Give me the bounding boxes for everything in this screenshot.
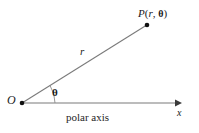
radius-line	[22, 26, 146, 104]
point-p-close-paren: )	[163, 7, 167, 19]
point-p-name: P	[138, 7, 145, 19]
terminal-point-dot	[145, 23, 150, 28]
point-p-label: P(r, θ)	[138, 8, 167, 19]
polar-axis-arrowhead	[175, 100, 182, 107]
radius-label: r	[80, 46, 84, 57]
axis-variable-label: x	[177, 108, 181, 118]
polar-axis-caption: polar axis	[66, 112, 109, 123]
polar-coordinates-figure: P(r, θ) r O θ x polar axis	[0, 0, 199, 133]
origin-label: O	[7, 94, 16, 106]
origin-point-dot	[20, 101, 25, 106]
angle-label: θ	[52, 87, 58, 98]
